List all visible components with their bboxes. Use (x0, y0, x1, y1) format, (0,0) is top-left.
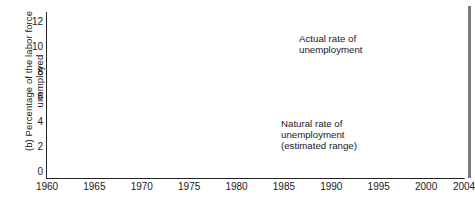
annotation-natural-rate: Natural rate of unemployment (estimated … (281, 118, 357, 152)
y-axis-line (46, 12, 47, 179)
x-tick-1960: 1960 (36, 182, 58, 192)
plot-area (47, 6, 468, 178)
x-tick-1970: 1970 (131, 182, 153, 192)
plot-background (47, 6, 468, 178)
y-tick-10: 10 (29, 42, 43, 52)
y-tick-0: 0 (29, 167, 43, 177)
annotation-actual-rate: Actual rate of unemployment (299, 33, 363, 55)
y-tick-2: 2 (29, 142, 43, 152)
y-tick-8: 8 (29, 67, 43, 77)
x-tick-2000: 2000 (415, 182, 437, 192)
x-tick-2004: 2004 (453, 182, 475, 192)
x-tick-1995: 1995 (368, 182, 390, 192)
unemployment-chart-figure: (b) Percentage of the labor force unempl… (0, 0, 475, 204)
y-tick-6: 6 (29, 92, 43, 102)
x-tick-1985: 1985 (273, 182, 295, 192)
x-tick-1980: 1980 (225, 182, 247, 192)
x-tick-1975: 1975 (178, 182, 200, 192)
y-tick-12: 12 (29, 17, 43, 27)
x-tick-1990: 1990 (320, 182, 342, 192)
y-axis-tick-labels: 024681012 (27, 0, 43, 204)
y-tick-4: 4 (29, 117, 43, 127)
x-axis-line (46, 178, 464, 179)
x-tick-1965: 1965 (83, 182, 105, 192)
x-axis-tick-labels: 1960196519701975198019851990199520002004 (0, 182, 475, 196)
